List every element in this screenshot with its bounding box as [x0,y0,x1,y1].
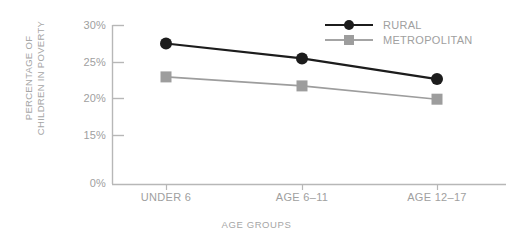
x-axis-tick-labels: UNDER 6 AGE 6–11 AGE 12–17 [0,191,513,211]
legend-entry-rural: RURAL [325,17,422,33]
x-tick-label-age-12-17: AGE 12–17 [407,191,467,203]
data-point-rural-under-6 [160,38,172,50]
legend-swatch-metropolitan [325,33,373,47]
data-point-metropolitan-age-12-17 [432,94,443,105]
circle-marker-icon [344,20,354,30]
x-axis-title: AGE GROUPS [0,219,513,230]
legend-label-metropolitan: METROPOLITAN [383,34,473,46]
chart-legend: RURAL METROPOLITAN [325,8,510,44]
legend-entry-metropolitan: METROPOLITAN [325,32,473,48]
legend-label-rural: RURAL [383,19,422,31]
data-point-metropolitan-age-6-11 [297,80,308,91]
x-tick-label-under-6: UNDER 6 [141,191,191,203]
square-marker-icon [344,35,354,45]
legend-swatch-rural [325,18,373,32]
data-point-rural-age-6-11 [296,52,308,64]
data-point-rural-age-12-17 [431,73,443,85]
poverty-by-age-line-chart: PERCENTAGE OF CHILDREN IN POVERTY 30% 25… [0,0,513,249]
data-point-metropolitan-under-6 [161,71,172,82]
x-tick-label-age-6-11: AGE 6–11 [276,191,328,203]
